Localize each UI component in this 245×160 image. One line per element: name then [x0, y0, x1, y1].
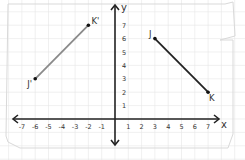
x-tick-label: 2: [140, 123, 144, 131]
point-label: J: [148, 29, 152, 39]
y-tick-label: 6: [122, 35, 126, 43]
y-tick-label: 3: [122, 75, 126, 83]
x-tick-label: 3: [153, 123, 157, 131]
y-tick-label: 1: [122, 102, 126, 110]
segments: JKJ'K': [26, 16, 215, 103]
point-label: K': [91, 16, 99, 26]
coordinate-plane: xy -7-6-5-4-3-2-112345671234567 JKJ'K': [0, 0, 245, 160]
x-tick-label: -5: [45, 123, 51, 131]
y-tick-label: 4: [122, 62, 126, 70]
torn-paper-edge: [6, 2, 235, 148]
y-tick-label: 7: [122, 22, 126, 30]
point-marker: [153, 37, 157, 41]
x-axis-label: x: [221, 119, 227, 130]
x-tick-label: 1: [126, 123, 130, 131]
y-axis-label: y: [121, 2, 127, 13]
y-tick-label: 2: [122, 89, 126, 97]
x-tick-label: 5: [179, 123, 183, 131]
point-label: K: [209, 93, 215, 103]
x-tick-label: -3: [72, 123, 78, 131]
x-tick-label: -6: [32, 123, 38, 131]
y-tick-label: 5: [122, 49, 126, 57]
x-tick-label: -4: [59, 123, 65, 131]
x-tick-label: 6: [193, 123, 197, 131]
x-tick-label: -2: [85, 123, 91, 131]
point-marker: [33, 77, 37, 81]
x-tick-label: 4: [166, 123, 170, 131]
x-tick-label: -1: [98, 123, 104, 131]
x-tick-label: -7: [19, 123, 25, 131]
point-label: J': [26, 79, 32, 89]
point-marker: [87, 23, 91, 27]
x-tick-label: 7: [206, 123, 210, 131]
